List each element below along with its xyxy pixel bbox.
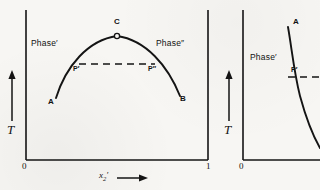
right-boundary-curve — [288, 27, 320, 148]
right-panel — [225, 10, 320, 160]
phase-diagram-svg — [0, 0, 320, 190]
right-phase-prime-label: Phase′ — [250, 52, 277, 62]
point-label-B: B — [180, 94, 186, 103]
left-y-axis-label: T — [7, 122, 14, 138]
right-y-axis-label: T — [224, 122, 231, 138]
point-label-C: C — [114, 17, 120, 26]
left-x-tick-min: 0 — [22, 161, 27, 171]
right-point-label-A: A — [293, 17, 299, 26]
left-x-axis-label: x2′ — [99, 170, 108, 182]
right-t-arrow-icon — [225, 70, 232, 121]
right-x-tick-min: 0 — [239, 161, 244, 171]
critical-point-marker — [114, 33, 119, 38]
x-axis-label-prime: ′ — [106, 170, 108, 180]
point-label-A: A — [48, 97, 54, 106]
figure-canvas: Phase′ Phase″ C A B P′ P″ T 0 1 x2′ Phas… — [0, 0, 320, 190]
left-x-arrow-icon — [117, 174, 148, 181]
point-label-P-double-prime: P″ — [148, 65, 156, 72]
left-panel — [8, 10, 208, 182]
left-t-arrow-icon — [8, 70, 15, 121]
left-phase-double-prime-label: Phase″ — [156, 38, 184, 48]
right-point-label-P-prime: P′ — [291, 66, 297, 73]
point-label-P-prime: P′ — [73, 65, 79, 72]
left-x-tick-max: 1 — [206, 161, 211, 171]
left-phase-prime-label: Phase′ — [31, 38, 58, 48]
